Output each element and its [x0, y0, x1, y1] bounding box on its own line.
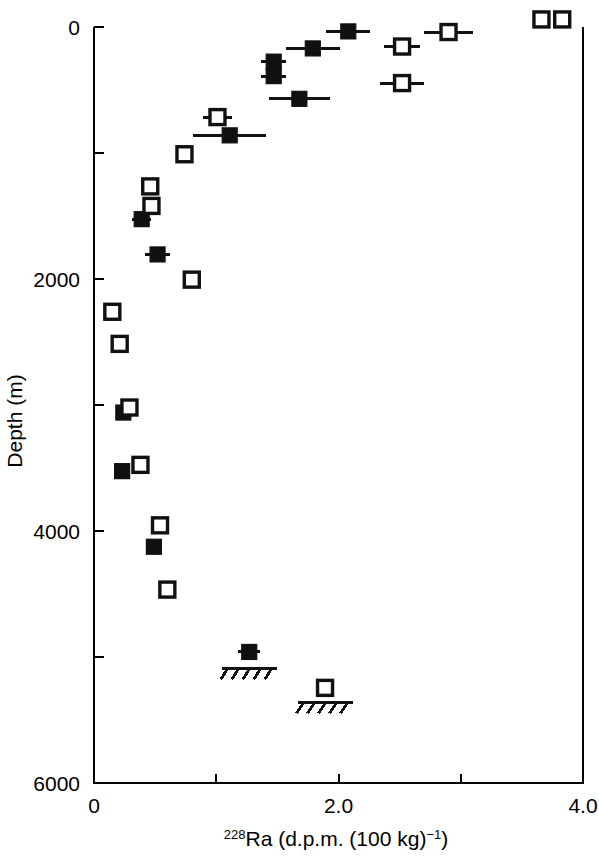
radium-depth-profile-figure: 02.04.0 0200040006000 228Ra (d.p.m. (100… — [0, 0, 599, 861]
x-tick-label: 4.0 — [568, 794, 597, 817]
data-point-open-square — [210, 110, 225, 125]
data-point-open-square — [153, 518, 168, 533]
data-point-open-square — [534, 12, 549, 27]
error-bars — [132, 31, 473, 652]
isotope-superscript: 228 — [224, 827, 246, 842]
seafloor-hatch-mark — [341, 702, 348, 713]
data-point-filled-square — [305, 41, 320, 56]
seafloor-hatch-mark — [254, 668, 261, 679]
data-point-filled-square — [266, 54, 281, 69]
y-tick-label: 4000 — [33, 520, 80, 543]
plot-axes — [94, 27, 583, 783]
scatter-plot-canvas: 02.04.0 0200040006000 228Ra (d.p.m. (100… — [0, 0, 599, 861]
data-point-open-square — [144, 198, 159, 213]
seafloor-hatch-mark — [297, 702, 304, 713]
axis-frame — [94, 27, 583, 783]
data-point-open-square — [441, 25, 456, 40]
data-point-open-square — [555, 12, 570, 27]
seafloor-hatch-mark — [221, 668, 228, 679]
data-point-filled-square — [266, 69, 281, 84]
y-tick-label: 2000 — [33, 268, 80, 291]
exponent-superscript: −1 — [426, 827, 441, 842]
seafloor-marker-filled-profile — [221, 668, 277, 679]
data-point-open-square — [318, 680, 333, 695]
seafloor-hatch-mark — [232, 668, 239, 679]
data-point-filled-square — [242, 644, 257, 659]
data-point-filled-square — [222, 128, 237, 143]
data-point-open-square — [133, 457, 148, 472]
y-axis-title-wrap: Depth (m) — [2, 331, 28, 511]
y-axis-tick-labels: 0200040006000 — [33, 16, 80, 795]
data-point-open-square — [105, 304, 120, 319]
data-point-filled-square — [292, 91, 307, 106]
seafloor-hatch-mark — [265, 668, 272, 679]
x-axis-tick-labels: 02.04.0 — [88, 794, 597, 817]
seafloor-marker-open-profile — [297, 702, 353, 713]
data-point-open-square — [395, 39, 410, 54]
data-point-open-square — [143, 179, 158, 194]
data-point-filled-square — [115, 464, 130, 479]
data-point-open-square — [112, 336, 127, 351]
y-tick-label: 0 — [68, 16, 80, 39]
seafloor-hatch-mark — [330, 702, 337, 713]
y-tick-label: 6000 — [33, 772, 80, 795]
data-point-filled-square — [150, 247, 165, 262]
xlabel-main: Ra (d.p.m. (100 kg) — [245, 827, 426, 850]
seafloor-hatch-mark — [308, 702, 315, 713]
x-axis-ticks — [94, 774, 583, 783]
y-axis-title: Depth (m) — [3, 374, 27, 467]
data-point-open-square — [122, 400, 137, 415]
data-point-open-square — [395, 76, 410, 91]
xlabel-tail: ) — [441, 827, 448, 850]
data-point-open-square — [160, 582, 175, 597]
x-tick-label: 0 — [88, 794, 100, 817]
x-axis-title: 228Ra (d.p.m. (100 kg)−1) — [224, 827, 448, 851]
seafloor-hatch-mark — [319, 702, 326, 713]
y-axis-ticks — [94, 27, 104, 783]
data-markers — [105, 12, 570, 695]
data-point-open-square — [177, 147, 192, 162]
seafloor-hatch-mark — [243, 668, 250, 679]
x-tick-label: 2.0 — [324, 794, 353, 817]
data-point-open-square — [184, 272, 199, 287]
data-point-filled-square — [146, 539, 161, 554]
data-point-filled-square — [341, 24, 356, 39]
